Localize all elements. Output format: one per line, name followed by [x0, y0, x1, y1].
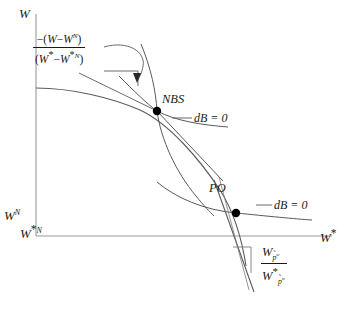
x-axis-label-text: W: [320, 230, 331, 245]
elasticity-expression: W˜pw W*˜pw: [261, 245, 287, 287]
slope-num-minus-paren: −(: [37, 33, 47, 45]
elasticity-num-w: W: [262, 245, 272, 259]
slope-num-close: ): [78, 33, 82, 45]
point-label-po: PO: [209, 182, 226, 195]
point-nbs[interactable]: [153, 107, 161, 115]
slope-expression: −(W−WN) (W*−W*N): [33, 32, 85, 67]
db-zero-label-nbs-text: dB = 0: [194, 111, 227, 125]
db-zero-label-po: dB = 0: [274, 199, 307, 211]
slope-leader-line: [79, 73, 157, 111]
slope-den-w2: W: [60, 53, 70, 65]
x-origin-label-sup: N: [37, 226, 42, 235]
elasticity-fraction-denominator: W*˜pw: [261, 263, 287, 286]
x-axis-label: W*: [320, 228, 337, 244]
elasticity-den-w: W: [262, 269, 272, 283]
y-origin-label-sup: N: [15, 208, 20, 217]
elasticity-num-tilde: ˜: [272, 249, 276, 258]
slope-num-w2: W: [63, 33, 73, 45]
slope-fraction: −(W−WN) (W*−W*N): [33, 32, 85, 67]
elasticity-den-p-tilde: ˜p: [278, 277, 282, 287]
db-zero-label-nbs: dB = 0: [194, 112, 227, 124]
indifference-curve-upper: [141, 44, 214, 216]
annotation-arrow-head: [133, 73, 141, 83]
elasticity-den-tilde: ˜: [278, 273, 282, 282]
y-axis-label: W: [19, 7, 30, 20]
elasticity-den-subscript: ˜pw: [278, 277, 285, 286]
y-axis-label-text: W: [19, 6, 30, 21]
slope-fraction-numerator: −(W−WN): [33, 32, 85, 47]
x-origin-label: W*N: [20, 224, 42, 240]
point-label-nbs: NBS: [162, 93, 184, 106]
point-label-po-text: PO: [209, 181, 226, 195]
point-label-nbs-text: NBS: [162, 92, 184, 106]
slope-den-close: ): [79, 53, 83, 65]
elasticity-fraction: W˜pw W*˜pw: [261, 245, 287, 287]
elasticity-den-sub-sup-w: w: [282, 276, 285, 281]
elasticity-num-sub-sup-w: w: [276, 252, 279, 257]
x-axis-label-star: *: [331, 227, 337, 239]
elasticity-fraction-numerator: W˜pw: [261, 245, 287, 263]
slope-fraction-denominator: (W*−W*N): [33, 47, 85, 66]
db-zero-label-po-text: dB = 0: [274, 198, 307, 212]
economics-diagram: W W* WN W*N NBS PO dB = 0 dB = 0 −(W−WN)…: [0, 0, 344, 317]
x-origin-label-text: W: [20, 226, 31, 241]
slope-num-w1: W: [47, 33, 57, 45]
point-po[interactable]: [232, 209, 240, 217]
y-origin-label: WN: [4, 209, 20, 222]
y-origin-label-text: W: [4, 208, 15, 223]
elasticity-num-subscript: ˜pw: [272, 253, 279, 262]
elasticity-num-p-tilde: ˜p: [272, 253, 276, 263]
slope-den-w1: W: [39, 53, 49, 65]
